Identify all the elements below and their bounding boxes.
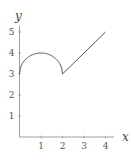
x-tick-label: 4 <box>103 141 109 151</box>
x-axis-label: x <box>122 130 129 144</box>
ticks: 123412345 <box>9 27 109 151</box>
y-tick-label: 4 <box>9 48 15 58</box>
y-tick-label: 5 <box>9 27 15 37</box>
x-tick-label: 3 <box>81 141 87 151</box>
y-tick-label: 1 <box>9 111 15 121</box>
chart: 123412345 x y <box>0 0 134 160</box>
x-tick-label: 2 <box>60 141 66 151</box>
y-axis-label: y <box>14 9 22 23</box>
axes <box>20 26 115 137</box>
x-tick-label: 1 <box>38 141 44 151</box>
y-tick-label: 2 <box>9 90 15 100</box>
data-curve <box>20 32 106 74</box>
y-tick-label: 3 <box>9 69 15 79</box>
